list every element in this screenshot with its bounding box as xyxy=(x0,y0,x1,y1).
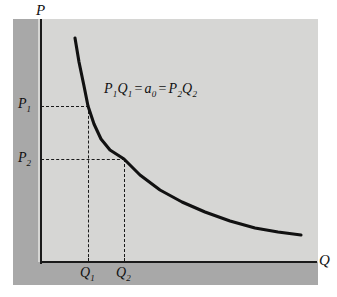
equation-term-a0-sub: 0 xyxy=(152,89,157,99)
x-tick-label-q2: Q2 xyxy=(116,265,131,283)
x-tick-label-q2-sub: 2 xyxy=(126,273,131,283)
equation-term-p1-base: P xyxy=(104,81,113,96)
equation-term-q2-base: Q xyxy=(182,81,192,96)
x-tick-label-q1-sub: 1 xyxy=(90,273,95,283)
dashed-guide-horizontal-p1 xyxy=(41,106,89,107)
x-tick-label-q1-base: Q xyxy=(80,265,90,280)
equation-operator-first: = xyxy=(132,81,144,96)
x-axis-tick-q2 xyxy=(124,258,125,262)
equation-operator-second: = xyxy=(157,81,169,96)
equation-term-a0-base: a xyxy=(145,81,152,96)
x-axis-label: Q xyxy=(319,252,330,269)
plot-area-panel xyxy=(38,19,318,262)
dashed-guide-vertical-q2 xyxy=(124,159,125,262)
y-tick-label-p1-base: P xyxy=(18,96,27,111)
y-tick-label-p2: P2 xyxy=(18,150,31,168)
y-tick-label-p2-base: P xyxy=(18,150,27,165)
dashed-guide-vertical-q1 xyxy=(88,106,89,262)
x-tick-label-q1: Q1 xyxy=(80,265,95,283)
equation-term-q2-sub: 2 xyxy=(192,89,197,99)
y-tick-label-p2-sub: 2 xyxy=(27,158,32,168)
x-axis-line xyxy=(40,261,317,263)
dashed-guide-horizontal-p2 xyxy=(41,159,125,160)
equation-term-q1-base: Q xyxy=(117,81,127,96)
y-axis-line xyxy=(40,19,42,264)
demand-curve-figure: P Q P1 P2 Q1 Q2 P1Q1=a0=P2Q2 xyxy=(0,0,337,297)
x-axis-tick-q1 xyxy=(88,258,89,262)
equation-annotation: P1Q1=a0=P2Q2 xyxy=(104,81,197,99)
y-axis-label: P xyxy=(36,2,45,19)
y-tick-label-p1: P1 xyxy=(18,96,31,114)
x-tick-label-q2-base: Q xyxy=(116,265,126,280)
y-tick-label-p1-sub: 1 xyxy=(27,104,32,114)
